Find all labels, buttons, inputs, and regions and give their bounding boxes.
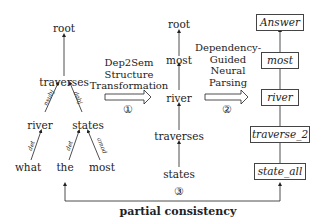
dep-node-the: the bbox=[56, 162, 73, 173]
lf-node-traverse2: traverse_2 bbox=[250, 126, 310, 143]
sem-node-states: states bbox=[163, 169, 195, 180]
diagram-lines bbox=[0, 0, 325, 224]
sem-node-river: river bbox=[166, 93, 192, 104]
step1-caption: Dep2Sem Structure Transformation bbox=[90, 57, 169, 92]
sem-node-root: root bbox=[168, 19, 190, 30]
lf-node-most: most bbox=[261, 52, 299, 69]
dep-node-what: what bbox=[15, 162, 41, 173]
sem-node-most: most bbox=[166, 55, 192, 66]
dep-node-states: states bbox=[72, 120, 104, 131]
step3-number: ③ bbox=[174, 186, 184, 197]
lf-node-river: river bbox=[261, 89, 299, 106]
dep-node-traverses: traverses bbox=[39, 77, 89, 88]
dep-node-root: root bbox=[53, 23, 75, 34]
step2-number: ② bbox=[222, 104, 232, 115]
lf-node-state-all: state_all bbox=[254, 163, 306, 180]
step2-caption: Dependency- Guided Neural Parsing bbox=[195, 42, 261, 88]
lf-node-answer: Answer bbox=[256, 14, 304, 31]
partial-consistency-label: partial consistency bbox=[120, 205, 237, 218]
step1-number: ① bbox=[123, 104, 133, 115]
dep-node-most: most bbox=[89, 162, 115, 173]
dep-node-river: river bbox=[27, 120, 53, 131]
sem-node-traverses: traverses bbox=[154, 131, 204, 142]
